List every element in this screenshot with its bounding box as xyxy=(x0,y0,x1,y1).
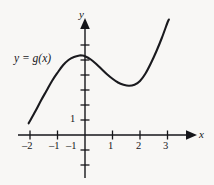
x-tick-label-1: 1 xyxy=(108,141,113,152)
graph-canvas xyxy=(0,0,214,185)
x-tick-label-3: 3 xyxy=(163,141,168,152)
x-tick-label--1: –1 xyxy=(49,141,60,152)
function-graph-figure: –2 –1 1 2 3 1 –1 y x y = g(x) xyxy=(0,0,214,185)
x-tick-label-2: 2 xyxy=(136,141,141,152)
x-tick-label--2: –2 xyxy=(22,141,33,152)
y-tick-label-1: 1 xyxy=(70,114,75,125)
function-curve xyxy=(29,20,169,124)
x-axis-label: x xyxy=(199,129,204,140)
y-tick-label--1: –1 xyxy=(66,141,77,152)
x-axis-arrowhead xyxy=(186,130,197,140)
curve-equation-label: y = g(x) xyxy=(14,53,51,65)
y-axis-label: y xyxy=(79,9,84,20)
